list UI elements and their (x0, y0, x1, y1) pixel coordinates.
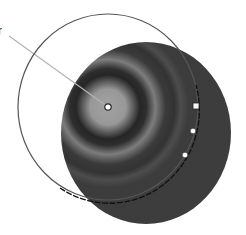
radius-dot-handle[interactable] (190, 128, 196, 134)
radius-dot-handle[interactable] (182, 152, 188, 158)
gradient-fill (61, 42, 231, 224)
radius-square-handle[interactable] (193, 103, 199, 109)
gradient-canvas (0, 0, 246, 235)
gradient-diagram: r (0, 0, 246, 235)
center-handle[interactable] (105, 104, 111, 110)
